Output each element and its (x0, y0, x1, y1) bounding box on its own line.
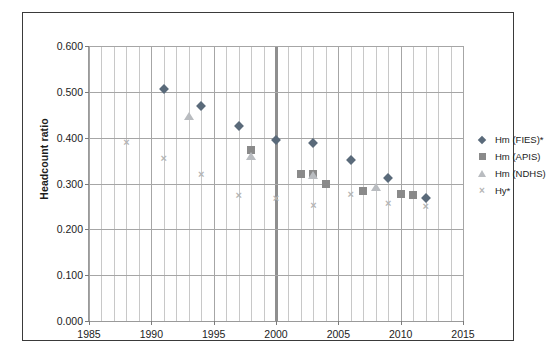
gridline-horizontal-0.600 (89, 46, 463, 47)
diamond-marker-icon (475, 137, 489, 143)
x-tick-label-1995: 1995 (202, 328, 225, 340)
chart-legend: Hm (FIES)* Hm (APIS) Hm (NDHS) × Hy* (475, 131, 550, 199)
x-tick-mark (89, 321, 90, 325)
legend-item-hy: × Hy* (475, 182, 550, 199)
legend-label-ndhs: Hm (NDHS) (495, 168, 546, 179)
gridline-horizontal-0.400 (89, 138, 463, 139)
legend-label-fies: Hm (FIES)* (495, 134, 544, 145)
x-tick-mark (401, 321, 402, 325)
y-tick-mark (85, 229, 89, 230)
square-marker-icon (475, 153, 489, 160)
y-tick-label-0.600: 0.600 (57, 40, 83, 52)
legend-item-ndhs: Hm (NDHS) (475, 165, 550, 182)
y-tick-mark (85, 184, 89, 185)
gridline-horizontal-0.300 (89, 184, 463, 185)
x-tick-mark (338, 321, 339, 325)
cross-marker-icon: × (475, 186, 489, 196)
gridline-horizontal-0.500 (89, 92, 463, 93)
legend-item-apis: Hm (APIS) (475, 148, 550, 165)
x-tick-mark (463, 321, 464, 325)
y-tick-mark (85, 46, 89, 47)
x-tick-mark (276, 321, 277, 325)
y-tick-label-0.100: 0.100 (57, 269, 83, 281)
x-tick-mark (151, 321, 152, 325)
y-tick-mark (85, 92, 89, 93)
x-tick-label-1990: 1990 (140, 328, 163, 340)
x-tick-label-2000: 2000 (264, 328, 287, 340)
y-tick-mark (85, 138, 89, 139)
gridline-vertical-2015 (463, 46, 464, 321)
plot-area: 0.0000.1000.2000.3000.4000.5000.60019851… (88, 46, 463, 322)
legend-label-hy: Hy* (495, 185, 510, 196)
y-tick-label-0.200: 0.200 (57, 223, 83, 235)
gridline-horizontal-0.200 (89, 229, 463, 230)
x-tick-label-2010: 2010 (389, 328, 412, 340)
triangle-marker-icon (475, 170, 489, 177)
legend-label-apis: Hm (APIS) (495, 151, 540, 162)
x-tick-mark (214, 321, 215, 325)
y-tick-label-0.300: 0.300 (57, 178, 83, 190)
gridline-horizontal-0.100 (89, 275, 463, 276)
x-tick-label-2005: 2005 (327, 328, 350, 340)
y-axis-title: Headcount ratio (38, 84, 50, 234)
x-tick-label-1985: 1985 (77, 328, 100, 340)
y-tick-label-0.000: 0.000 (57, 315, 83, 327)
y-tick-label-0.400: 0.400 (57, 132, 83, 144)
legend-item-fies: Hm (FIES)* (475, 131, 550, 148)
x-tick-label-2015: 2015 (451, 328, 474, 340)
figure-border: Headcount ratio 0.0000.1000.2000.3000.40… (22, 12, 514, 341)
y-tick-mark (85, 275, 89, 276)
y-tick-label-0.500: 0.500 (57, 86, 83, 98)
